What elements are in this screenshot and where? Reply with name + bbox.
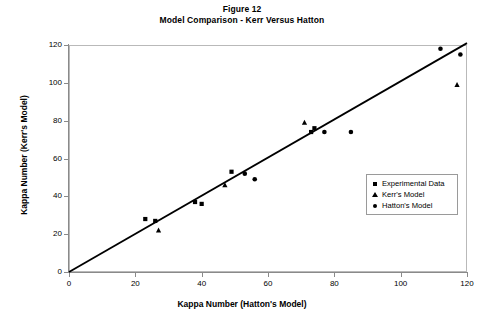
data-point [458, 52, 463, 57]
x-tick [401, 273, 402, 277]
data-point [229, 170, 233, 174]
data-point [438, 46, 443, 51]
legend-item-experimental-data: Experimental Data [371, 178, 454, 189]
data-point [156, 228, 161, 233]
x-tick [467, 273, 468, 277]
data-point [252, 177, 257, 182]
data-point [454, 82, 459, 87]
triangle-marker-icon [371, 192, 379, 197]
data-point [322, 130, 327, 135]
y-tick-label: 40 [36, 192, 62, 200]
x-tick-label: 120 [452, 280, 482, 288]
y-tick [64, 196, 68, 197]
legend-item-hattons-model: Hatton's Model [371, 200, 454, 211]
y-tick [64, 45, 68, 46]
data-point [312, 126, 316, 130]
plot-canvas [0, 0, 484, 321]
x-tick [202, 273, 203, 277]
x-tick [69, 273, 70, 277]
y-tick [64, 159, 68, 160]
x-axis-title: Kappa Number (Hatton's Model) [0, 299, 484, 309]
x-tick [135, 273, 136, 277]
y-tick-label: 20 [36, 230, 62, 238]
y-tick-label: 120 [36, 41, 62, 49]
x-tick-label: 60 [253, 280, 283, 288]
figure-chart: Figure 12 Model Comparison - Kerr Versus… [0, 0, 484, 321]
legend-label: Kerr's Model [382, 189, 424, 200]
data-point [309, 130, 313, 134]
data-point [200, 202, 204, 206]
y-tick [64, 121, 68, 122]
y-axis-title: Kappa Number (Kerr's Model) [19, 55, 29, 255]
x-tick-label: 80 [319, 280, 349, 288]
data-point [153, 219, 157, 223]
y-tick-label: 60 [36, 155, 62, 163]
x-tick-label: 100 [386, 280, 416, 288]
y-tick [64, 234, 68, 235]
legend-label: Experimental Data [382, 178, 444, 189]
x-tick-label: 0 [54, 280, 84, 288]
x-tick [268, 273, 269, 277]
chart-legend: Experimental Data Kerr's Model Hatton's … [366, 174, 458, 215]
circle-marker-icon [371, 204, 379, 208]
legend-label: Hatton's Model [382, 200, 432, 211]
x-tick [334, 273, 335, 277]
y-tick [64, 272, 68, 273]
legend-item-kerrs-model: Kerr's Model [371, 189, 454, 200]
x-tick-label: 40 [187, 280, 217, 288]
data-point [349, 130, 354, 135]
x-tick-label: 20 [120, 280, 150, 288]
square-marker-icon [371, 182, 379, 186]
y-tick-label: 80 [36, 117, 62, 125]
data-point [242, 171, 247, 176]
data-point [193, 200, 197, 204]
data-point [143, 217, 147, 221]
data-point [302, 120, 307, 125]
parity-line [69, 43, 467, 272]
y-tick-label: 100 [36, 79, 62, 87]
y-tick [64, 83, 68, 84]
y-tick-label: 0 [36, 268, 62, 276]
